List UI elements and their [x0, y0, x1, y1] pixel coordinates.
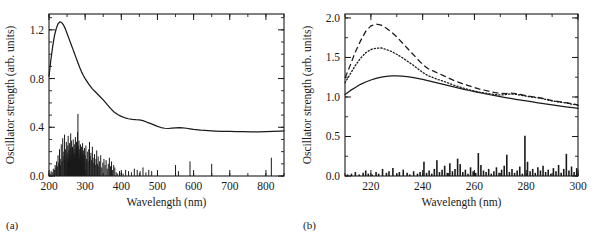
- curve-dashed: [345, 24, 578, 105]
- curve-dotted: [345, 48, 578, 105]
- stick-spectrum: [50, 114, 271, 176]
- figure-container: 2003004005006007008000.00.40.81.2Wavelen…: [0, 0, 599, 235]
- y-tick-label: 0.8: [30, 73, 45, 85]
- y-tick-label: 0.5: [326, 130, 341, 142]
- panel-a: 2003004005006007008000.00.40.81.2Wavelen…: [0, 0, 300, 235]
- curve-solid: [345, 76, 578, 109]
- x-tick-label: 600: [185, 180, 203, 192]
- x-tick-label: 400: [113, 180, 131, 192]
- x-tick-label: 300: [77, 180, 95, 192]
- y-axis-title: Oscillator strength (arb. units): [4, 26, 17, 165]
- plot-frame: [345, 14, 578, 176]
- y-tick-label: 1.2: [30, 24, 45, 36]
- y-tick-label: 0.0: [326, 170, 341, 182]
- y-tick-label: 2.0: [326, 12, 341, 24]
- panel-b: 2202402602803000.00.51.01.52.0Wavelength…: [299, 0, 599, 235]
- x-axis-title: Wavelength (nm): [127, 196, 207, 209]
- y-tick-label: 0.4: [30, 121, 45, 133]
- x-tick-label: 260: [466, 180, 484, 192]
- curve-solid: [49, 22, 284, 132]
- x-tick-label: 500: [149, 180, 167, 192]
- x-tick-label: 700: [221, 180, 239, 192]
- panel-b-plot: 2202402602803000.00.51.01.52.0Wavelength…: [299, 0, 599, 235]
- panel-b-label: (b): [303, 219, 316, 231]
- panel-a-label: (a): [6, 219, 18, 231]
- x-tick-label: 240: [414, 180, 432, 192]
- x-axis-title: Wavelength (nm): [422, 196, 502, 209]
- y-axis-title: Oscillator strength (arb. units): [301, 26, 314, 165]
- x-tick-label: 280: [518, 180, 536, 192]
- y-tick-label: 0.0: [30, 170, 45, 182]
- x-tick-label: 800: [257, 180, 275, 192]
- y-tick-label: 1.0: [326, 91, 341, 103]
- panel-a-plot: 2003004005006007008000.00.40.81.2Wavelen…: [0, 0, 300, 235]
- x-tick-label: 220: [362, 180, 380, 192]
- x-tick-label: 300: [569, 180, 587, 192]
- stick-spectrum: [348, 136, 577, 176]
- y-tick-label: 1.5: [326, 51, 341, 63]
